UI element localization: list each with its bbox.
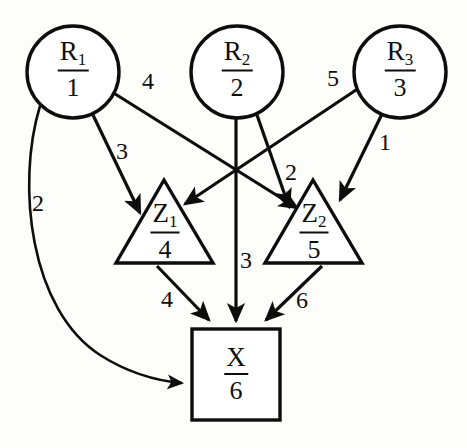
fraction-bar [222, 70, 253, 72]
node-label-r1: R1 1 [57, 38, 90, 101]
edge-r1-z1 [93, 115, 140, 213]
node-r2-subscript: 2 [242, 50, 251, 69]
edge-label-r1-z2: 4 [142, 69, 154, 93]
edge-label-r3-z2: 1 [379, 130, 391, 154]
edge-label-r1-x: 2 [32, 191, 44, 215]
fraction-bar [224, 373, 248, 375]
node-r1-symbol: R [60, 36, 78, 66]
node-label-z1: Z1 4 [150, 200, 181, 263]
node-label-r2: R2 2 [221, 38, 254, 101]
node-r3-subscript: 3 [405, 50, 414, 69]
diagram-canvas: R1 1 R2 2 R3 3 Z1 4 Z2 5 [0, 0, 467, 448]
node-z2-symbol: Z [302, 198, 319, 228]
node-r2-denominator: 2 [221, 74, 254, 101]
node-r1-denominator: 1 [57, 74, 90, 101]
fraction-bar [58, 70, 89, 72]
fraction-bar [300, 232, 329, 234]
edge-label-r1-z1: 3 [116, 139, 128, 163]
edge-z2-x [266, 266, 322, 320]
node-z1-symbol: Z [153, 198, 170, 228]
node-x-denominator: 6 [223, 377, 249, 404]
node-label-z2: Z2 5 [299, 200, 330, 263]
edge-label-r3-z1: 5 [327, 66, 339, 90]
node-z1-denominator: 4 [150, 236, 181, 263]
node-x-symbol: X [226, 342, 246, 372]
node-label-x: X 6 [223, 344, 249, 404]
node-r2-symbol: R [224, 36, 242, 66]
node-z1-subscript: 1 [169, 212, 178, 231]
edge-label-r2-z2: 2 [285, 160, 297, 184]
fraction-bar [151, 232, 180, 234]
node-r1-subscript: 1 [78, 50, 87, 69]
node-r3-denominator: 3 [384, 74, 417, 101]
edge-label-z1-x: 4 [161, 287, 173, 311]
edge-label-r2-x: 3 [240, 248, 252, 272]
node-z2-subscript: 2 [318, 212, 327, 231]
node-label-r3: R3 3 [384, 38, 417, 101]
node-r3-symbol: R [387, 36, 405, 66]
edge-label-z2-x: 6 [296, 288, 308, 312]
fraction-bar [385, 70, 416, 72]
node-z2-denominator: 5 [299, 236, 330, 263]
edge-r3-z2 [340, 114, 382, 200]
